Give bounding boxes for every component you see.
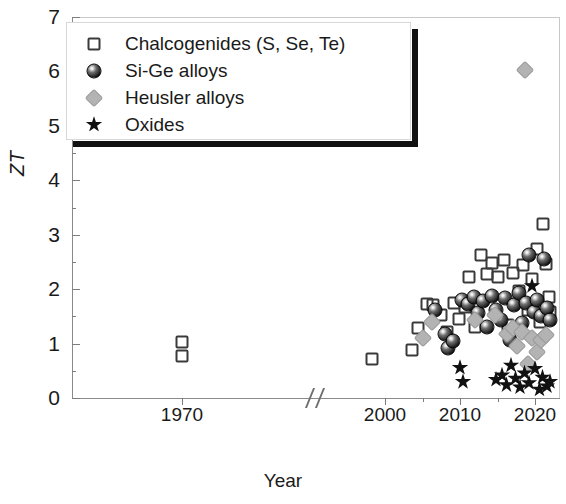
y-tick-label-4: 4 xyxy=(34,169,60,190)
data-point-open-square xyxy=(365,352,378,365)
data-point-open-square xyxy=(536,217,549,230)
data-point-open-square xyxy=(176,336,189,349)
y-tick-label-5: 5 xyxy=(34,115,60,136)
y-axis-title: ZT xyxy=(6,151,29,176)
x-tick-label-2010: 2010 xyxy=(425,404,495,426)
scatter-chart-figure: 01234567 1970200020102020 ZT Year Chalco… xyxy=(0,0,566,504)
data-point-shaded-sphere xyxy=(543,312,558,327)
y-tick-label-6: 6 xyxy=(34,60,60,81)
y-tick-0 xyxy=(72,398,80,399)
data-point-gray-diamond xyxy=(515,61,533,79)
data-point-black-star xyxy=(455,373,472,390)
x-axis-title: Year xyxy=(0,470,566,492)
data-point-open-square xyxy=(491,271,504,284)
legend-label: Chalcogenides (S, Se, Te) xyxy=(125,33,345,55)
chart-legend: Chalcogenides (S, Se, Te)Si-Ge alloysHeu… xyxy=(66,22,411,140)
legend-label: Oxides xyxy=(125,114,184,136)
legend-entry-2: Si-Ge alloys xyxy=(81,57,227,84)
x-minor-tick xyxy=(498,398,499,402)
data-point-open-square xyxy=(406,344,419,357)
data-point-open-square xyxy=(452,312,465,325)
legend-entry-3: Heusler alloys xyxy=(81,84,244,111)
y-tick-label-2: 2 xyxy=(34,278,60,299)
x-tick-label-1970: 1970 xyxy=(147,404,217,426)
data-point-open-square xyxy=(176,349,189,362)
x-axis-line xyxy=(72,398,560,399)
data-point-shaded-sphere xyxy=(537,251,552,266)
x-tick-label-2000: 2000 xyxy=(350,404,420,426)
data-point-open-square xyxy=(497,253,510,266)
shaded-sphere-icon xyxy=(87,63,102,78)
open-square-icon xyxy=(88,37,101,50)
black-star-icon xyxy=(86,116,103,133)
data-point-black-star xyxy=(503,357,520,374)
gray-diamond-icon xyxy=(85,88,103,106)
x-tick-label-2020: 2020 xyxy=(500,404,566,426)
data-point-shaded-sphere xyxy=(445,334,460,349)
data-point-open-square xyxy=(463,271,476,284)
y-tick-label-0: 0 xyxy=(34,387,60,408)
legend-marker-open-square-icon xyxy=(81,32,107,56)
legend-marker-shaded-sphere-icon xyxy=(81,59,107,83)
y-tick-label-3: 3 xyxy=(34,224,60,245)
x-minor-tick xyxy=(423,398,424,402)
y-tick-label-7: 7 xyxy=(34,6,60,27)
legend-marker-black-star-icon xyxy=(81,113,107,137)
data-point-black-star xyxy=(452,359,469,376)
legend-entry-4: Oxides xyxy=(81,111,184,138)
legend-entry-1: Chalcogenides (S, Se, Te) xyxy=(81,30,345,57)
y-tick-label-1: 1 xyxy=(34,333,60,354)
legend-label: Heusler alloys xyxy=(125,87,244,109)
legend-marker-gray-diamond-icon xyxy=(81,86,107,110)
legend-label: Si-Ge alloys xyxy=(125,60,227,82)
data-point-shaded-sphere xyxy=(522,248,537,263)
